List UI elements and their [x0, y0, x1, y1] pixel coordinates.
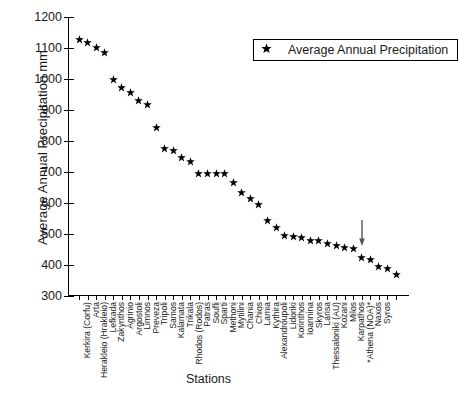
- x-axis-tick: [130, 295, 131, 300]
- x-axis-tick: [122, 295, 123, 300]
- x-axis-tick: [96, 295, 97, 300]
- x-axis-tick: [242, 295, 243, 300]
- data-point-marker: [100, 48, 109, 57]
- x-axis-tick: [387, 295, 388, 300]
- x-axis-tick: [310, 295, 311, 300]
- y-axis-tick-inner: [69, 48, 74, 49]
- x-axis-tick: [105, 295, 106, 300]
- y-axis-tick-label: 800: [41, 134, 62, 148]
- x-axis-tick: [396, 295, 397, 300]
- x-axis-tick: [302, 295, 303, 300]
- y-axis-tick-inner: [69, 265, 74, 266]
- x-axis-tick: [327, 295, 328, 300]
- y-axis-tick-label: 1200: [34, 10, 62, 24]
- x-axis-tick: [345, 295, 346, 300]
- x-axis-tick: [165, 295, 166, 300]
- x-axis-tick: [250, 295, 251, 300]
- y-axis-tick-label: 1000: [34, 72, 62, 86]
- y-axis-tick-label: 900: [41, 103, 62, 117]
- x-axis-tick: [199, 295, 200, 300]
- x-axis-tick: [362, 295, 363, 300]
- x-axis-tick: [88, 295, 89, 300]
- data-point-marker: [152, 123, 161, 132]
- x-axis-tick: [79, 295, 80, 300]
- x-axis-tick: [216, 295, 217, 300]
- x-axis-tick: [139, 295, 140, 300]
- x-axis-tick: [182, 295, 183, 300]
- x-axis-tick: [353, 295, 354, 300]
- x-axis-tick: [276, 295, 277, 300]
- y-axis-tick-inner: [69, 172, 74, 173]
- y-axis-tick-label: 700: [41, 165, 62, 179]
- y-axis-tick-label: 500: [41, 227, 62, 241]
- x-axis-tick: [208, 295, 209, 300]
- x-axis-tick: [173, 295, 174, 300]
- y-axis-tick-inner: [69, 203, 74, 204]
- data-point-marker: [392, 270, 401, 279]
- y-axis-tick-label: 300: [41, 289, 62, 303]
- x-axis-tick: [190, 295, 191, 300]
- x-axis-tick: [113, 295, 114, 300]
- x-axis-category-label: Syros: [382, 302, 392, 324]
- legend-star-icon: [260, 43, 272, 57]
- data-point-marker: [254, 200, 263, 209]
- y-axis-tick-inner: [69, 110, 74, 111]
- x-axis-tick: [267, 295, 268, 300]
- data-point-marker: [229, 178, 238, 187]
- y-axis-tick-inner: [69, 296, 74, 297]
- x-axis-tick: [148, 295, 149, 300]
- y-axis-tick-inner: [69, 234, 74, 235]
- y-axis-tick-inner: [69, 141, 74, 142]
- y-axis-tick-label: 1100: [35, 41, 62, 55]
- legend-label: Average Annual Precipitation: [288, 43, 448, 57]
- plot-area: Average Annual Precipitation 30040050060…: [68, 17, 409, 296]
- x-axis-tick: [319, 295, 320, 300]
- x-axis-tick: [293, 295, 294, 300]
- x-axis-tick: [285, 295, 286, 300]
- x-axis-tick: [259, 295, 260, 300]
- x-axis-tick: [370, 295, 371, 300]
- y-axis-tick-inner: [69, 17, 74, 18]
- chart-legend: Average Annual Precipitation: [253, 39, 458, 61]
- y-axis-tick-label: 600: [41, 196, 62, 210]
- x-axis-tick: [336, 295, 337, 300]
- y-axis-tick-label: 400: [41, 258, 62, 272]
- y-axis-tick-inner: [69, 79, 74, 80]
- x-axis-tick: [233, 295, 234, 300]
- x-axis-tick: [156, 295, 157, 300]
- data-point-marker: [143, 100, 152, 109]
- data-point-marker: [186, 157, 195, 166]
- x-axis-title: Stations: [0, 372, 417, 386]
- x-axis-tick: [225, 295, 226, 300]
- x-axis-tick: [379, 295, 380, 300]
- annotation-arrow-icon: [357, 220, 367, 246]
